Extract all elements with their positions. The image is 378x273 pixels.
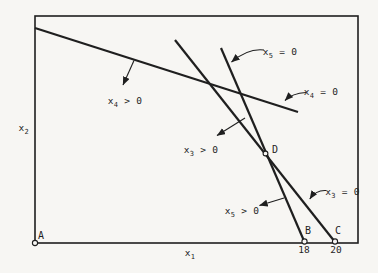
region-arrow-x3 <box>217 118 245 136</box>
vertex-B-label: B <box>305 225 311 236</box>
region-label-x4-gt-0: x4 > 0 <box>108 95 143 109</box>
vertex-C-label: C <box>335 225 341 236</box>
line-label-x3-eq-0: x3 = 0 <box>325 186 360 200</box>
leader-x5-eq-0 <box>232 50 265 62</box>
region-arrow-x5 <box>260 198 285 206</box>
vertex-D-label: D <box>272 144 278 155</box>
region-arrow-x4 <box>123 61 134 86</box>
x-axis-label: x1 <box>185 247 196 261</box>
vertex-D-marker <box>263 151 268 156</box>
line-label-x5-eq-0: x5 = 0 <box>263 46 298 60</box>
line-x4-eq-0 <box>35 28 298 112</box>
leader-x3-eq-0 <box>310 190 326 199</box>
tick-label-18: 18 <box>298 244 310 255</box>
figure-canvas: x2 x1 A B C D 18 20 x4 > 0 x3 > 0 x5 > 0… <box>0 0 378 273</box>
y-axis-label: x2 <box>18 122 29 136</box>
lp-constraint-figure: x2 x1 A B C D 18 20 x4 > 0 x3 > 0 x5 > 0… <box>0 0 378 273</box>
line-label-x4-eq-0: x4 = 0 <box>304 86 339 100</box>
region-label-x5-gt-0: x5 > 0 <box>225 205 260 219</box>
region-label-x3-gt-0: x3 > 0 <box>184 144 219 158</box>
tick-label-20: 20 <box>330 244 342 255</box>
vertex-A-marker <box>32 240 37 245</box>
vertex-A-label: A <box>38 230 44 241</box>
